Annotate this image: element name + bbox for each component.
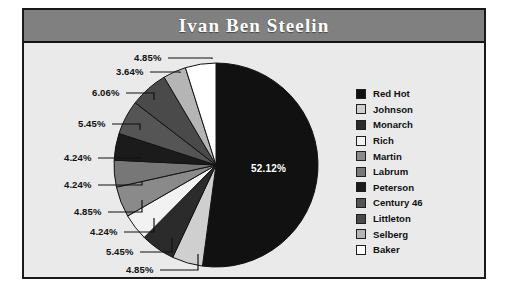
legend-swatch [356,214,366,224]
pie-value-label: 4.85% [134,52,161,63]
legend-item-label: Red Hot [373,88,410,99]
legend-item[interactable]: Rich [356,133,476,149]
legend-swatch [356,245,366,255]
legend-swatch [356,120,366,130]
plot-area: 4.85%5.45%4.24%4.85%4.24%4.24%5.45%6.06%… [24,43,484,277]
pie-value-label: 5.45% [78,118,105,129]
chart-title-bar: Ivan Ben Steelin [24,10,484,43]
legend-item[interactable]: Johnson [356,102,476,118]
legend-item[interactable]: Labrum [356,164,476,180]
page-title: Ivan Ben Steelin [179,15,330,37]
plot-inner: 4.85%5.45%4.24%4.85%4.24%4.24%5.45%6.06%… [30,48,478,271]
legend-item[interactable]: Littleton [356,211,476,227]
pie-value-label: 3.64% [116,66,143,77]
legend-item[interactable]: Peterson [356,180,476,196]
legend-swatch [356,167,366,177]
legend-item-label: Martin [373,151,402,162]
legend-item-label: Baker [373,244,400,255]
legend-item[interactable]: Century 46 [356,195,476,211]
legend-item[interactable]: Red Hot [356,86,476,102]
screenshot-frame: Ivan Ben Steelin 4.85%5.45%4.24%4.85%4.2… [0,0,508,287]
legend-item-label: Labrum [373,166,408,177]
pie-value-label: 4.85% [74,206,101,217]
legend-item[interactable]: Selberg [356,226,476,242]
legend-swatch [356,198,366,208]
legend-item-label: Century 46 [373,197,423,208]
pie-value-label: 4.85% [126,264,153,275]
legend-item-label: Monarch [373,119,413,130]
legend-item-label: Littleton [373,213,411,224]
legend-swatch [356,136,366,146]
legend-swatch [356,151,366,161]
legend-swatch [356,229,366,239]
legend-item[interactable]: Monarch [356,117,476,133]
legend-item-label: Rich [373,135,394,146]
pie-value-label: 4.24% [64,179,91,190]
legend-swatch [356,89,366,99]
pie-value-label-primary: 52.12% [251,163,286,174]
legend-swatch [356,104,366,114]
pie-value-label: 4.24% [64,152,91,163]
legend-item-label: Selberg [373,229,408,240]
legend-swatch [356,182,366,192]
pie-value-label: 6.06% [92,87,119,98]
chart-legend: Red HotJohnsonMonarchRichMartinLabrumPet… [356,86,476,258]
pie-value-label: 4.24% [90,226,117,237]
legend-item-label: Johnson [373,104,413,115]
legend-item[interactable]: Martin [356,148,476,164]
chart-object: Ivan Ben Steelin 4.85%5.45%4.24%4.85%4.2… [22,8,486,279]
legend-item-label: Peterson [373,182,414,193]
legend-item[interactable]: Baker [356,242,476,258]
pie-value-label: 5.45% [106,246,133,257]
leader-line [168,58,212,59]
